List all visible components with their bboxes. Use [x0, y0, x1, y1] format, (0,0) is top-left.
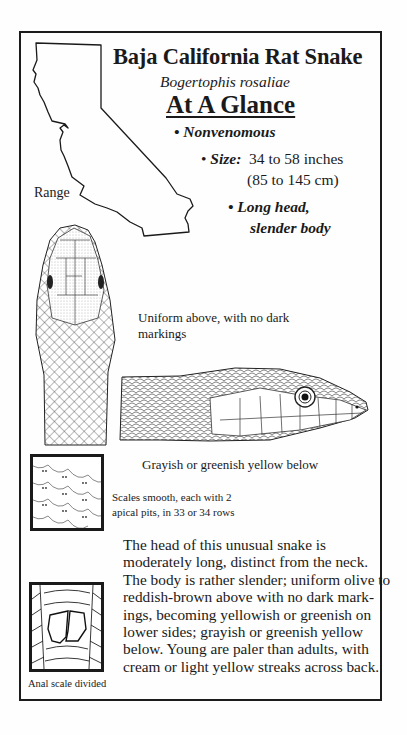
caption-anal: Anal scale divided: [28, 678, 106, 689]
description-line: moderately long, distinct from the neck.: [123, 553, 390, 570]
description-line: The body is rather slender; uniform oliv…: [123, 571, 390, 588]
description-paragraph: The head of this unusual snake is modera…: [123, 536, 390, 675]
description-line: cream or light yellow streaks across bac…: [123, 658, 390, 675]
description-line: reddish-brown above with no dark mark-: [123, 588, 390, 605]
scale-detail-illustration: [30, 454, 104, 531]
anal-scale-illustration: [29, 582, 104, 672]
description-line: lower sides; grayish or greenish yellow: [123, 623, 390, 640]
caption-ventral: Grayish or greenish yellow below: [142, 457, 318, 473]
description-line: ings, becoming yellowish or greenish on: [123, 606, 390, 623]
caption-scales: Scales smooth, each with 2 apical pits, …: [112, 490, 252, 519]
description-line: The head of this unusual snake is: [123, 536, 390, 553]
description-line: below. Young are paler than adults, with: [123, 640, 390, 657]
